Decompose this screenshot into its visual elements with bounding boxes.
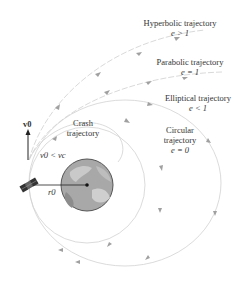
hyperbolic-condition: e > 1 <box>130 28 230 38</box>
radius-label: r0 <box>48 187 56 197</box>
velocity-label: v0 <box>23 119 32 129</box>
crash-line2: trajectory <box>62 128 104 138</box>
hyperbolic-name: Hyperbolic trajectory <box>130 18 230 28</box>
circular-label: Circular trajectory e = 0 <box>155 125 205 155</box>
parabolic-name: Parabolic trajectory <box>150 57 230 67</box>
elliptical-condition: e < 1 <box>158 103 238 113</box>
elliptical-name: Elliptical trajectory <box>158 93 238 103</box>
parabolic-label: Parabolic trajectory e = 1 <box>150 57 230 77</box>
elliptical-label: Elliptical trajectory e < 1 <box>158 93 238 113</box>
crash-label: Crash trajectory <box>62 118 104 138</box>
circular-line2: trajectory <box>155 135 205 145</box>
circular-condition: e = 0 <box>155 145 205 155</box>
velocity-arrowhead <box>26 129 31 135</box>
crash-condition: v0 < vc <box>40 150 66 160</box>
parabolic-condition: e = 1 <box>150 67 230 77</box>
circular-line1: Circular <box>155 125 205 135</box>
hyperbolic-label: Hyperbolic trajectory e > 1 <box>130 18 230 38</box>
crash-line1: Crash <box>62 118 104 128</box>
